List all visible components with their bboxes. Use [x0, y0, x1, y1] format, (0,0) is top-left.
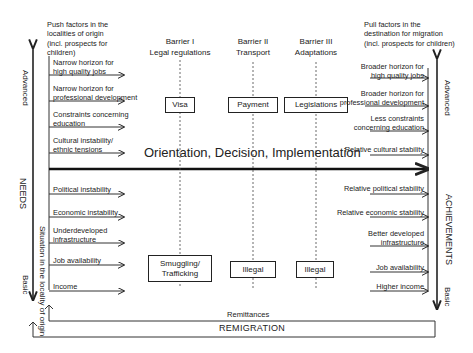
push-factor: Political instability [53, 185, 111, 194]
illegal-box-adaptations: Illegal [296, 261, 334, 278]
pull-factor-line: professional development [340, 98, 424, 107]
barrier-title: Barrier I [145, 37, 215, 48]
remigration-label: REMIGRATION [219, 323, 285, 333]
left-axis-advanced: Advanced [21, 70, 30, 106]
push-header-line: children) [47, 48, 108, 57]
pull-factor: Relative economic stability [337, 208, 424, 217]
pull-header-line: destination for migration [364, 29, 455, 38]
pull-factor-line: Less constraints [354, 114, 424, 123]
right-axis-achievements: ACHIEVEMENTS [444, 194, 454, 265]
barrier-1-header: Barrier I Legal regulations [145, 37, 215, 58]
smuggling-trafficking-box: Smuggling/ Trafficking [148, 255, 212, 282]
barrier-subtitle: Transport [223, 48, 283, 59]
pull-factor: Relative political stability [344, 184, 424, 193]
pull-factor-line: Broader horizon for [340, 89, 424, 98]
push-factors-header: Push factors in the localities of origin… [47, 20, 108, 58]
push-factor-line: Narrow horizon for [53, 84, 137, 93]
pull-factor-line: Broader horizon for [361, 62, 424, 71]
payment-box: Payment [228, 97, 278, 113]
pull-factor: Relative cultural stability [345, 145, 424, 154]
pull-factor: Broader horizon forhigh quality jobs [361, 62, 424, 80]
push-factor-line: ethnic tensions [53, 145, 113, 154]
barrier-title: Barrier II [223, 37, 283, 48]
pull-factor: Job availability [376, 263, 424, 272]
legislations-box: Legislations [284, 97, 348, 113]
pull-factor-line: infrastructure [368, 238, 424, 247]
visa-box: Visa [165, 97, 195, 113]
pull-factor: Better developedinfrastructure [368, 229, 424, 247]
push-factor: Income [53, 282, 77, 291]
pull-header-line: Pull factors in the [364, 20, 455, 29]
push-factor: Economic instability [53, 208, 118, 217]
push-factor: Cultural instability/ethnic tensions [53, 136, 113, 154]
box-line: Trafficking [162, 269, 198, 279]
push-header-line: (incl. prospects for [47, 39, 108, 48]
pull-factor: Broader horizon forprofessional developm… [340, 89, 424, 107]
situation-in-locality-of-origin-label: Situation in the locality of origin [38, 226, 47, 336]
pull-factor-line: high quality jobs [361, 71, 424, 80]
push-factor-line: Constraints concerning [53, 110, 129, 119]
orientation-decision-implementation-label: Orientation, Decision, Implementation [144, 145, 361, 160]
push-factor-line: Cultural instability/ [53, 136, 113, 145]
illegal-box-transport: Illegal [230, 261, 276, 278]
box-line: Smuggling/ [160, 259, 200, 269]
right-axis-advanced: Advanced [443, 80, 452, 116]
push-factor-line: high quality jobs [53, 67, 114, 76]
barrier-subtitle: Adaptations [284, 48, 348, 59]
left-axis-basic: Basic [21, 275, 30, 295]
push-header-line: Push factors in the [47, 20, 108, 29]
pull-factor: Less constraintsconcerning education [354, 114, 424, 132]
barrier-title: Barrier III [284, 37, 348, 48]
push-header-line: localities of origin [47, 29, 108, 38]
push-factor: Narrow horizon forprofessional developme… [53, 84, 137, 102]
push-factor: Constraints concerningeducation [53, 110, 129, 128]
push-factor-line: education [53, 119, 129, 128]
push-factor-line: Underdeveloped [53, 226, 107, 235]
barrier-3-header: Barrier III Adaptations [284, 37, 348, 58]
pull-factors-header: Pull factors in the destination for migr… [364, 20, 455, 48]
pull-header-line: (incl. prospects for children) [364, 39, 455, 48]
pull-factor-line: concerning education [354, 123, 424, 132]
push-factor-line: professional development [53, 93, 137, 102]
remittances-label: Remittances [227, 310, 269, 319]
push-factor-line: Narrow horizon for [53, 58, 114, 67]
left-axis-needs: NEEDS [18, 178, 28, 209]
push-factor: Underdevelopedinfrastructure [53, 226, 107, 244]
push-factor-line: infrastructure [53, 235, 107, 244]
pull-factor: Higher income [376, 282, 424, 291]
barrier-2-header: Barrier II Transport [223, 37, 283, 58]
right-axis-basic: Basic [443, 287, 452, 307]
push-factor: Narrow horizon forhigh quality jobs [53, 58, 114, 76]
push-factor: Job availability [53, 256, 101, 265]
pull-factor-line: Better developed [368, 229, 424, 238]
barrier-subtitle: Legal regulations [145, 48, 215, 59]
